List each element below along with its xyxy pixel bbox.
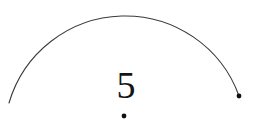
arc-measure-label: 5 — [117, 64, 136, 106]
arc-diagram-svg: 5 — [0, 0, 259, 134]
figure-canvas: 5 — [0, 0, 259, 134]
arc-endpoint-right-dot — [237, 94, 242, 99]
center-point-dot — [122, 114, 127, 119]
